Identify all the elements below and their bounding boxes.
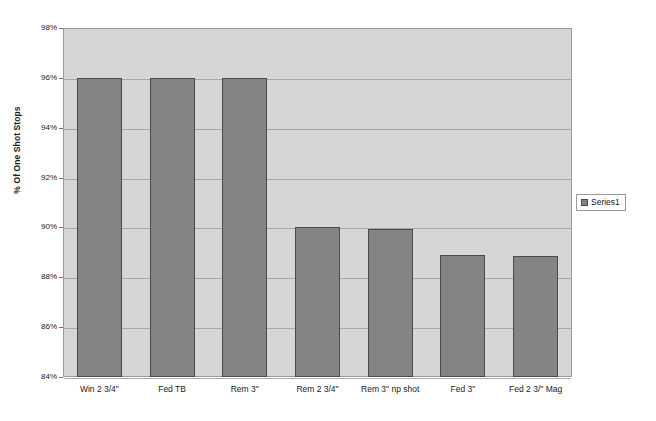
y-tick-label: 94%: [23, 124, 57, 132]
y-tick-label: 92%: [23, 174, 57, 182]
y-tick-label: 96%: [23, 74, 57, 82]
bar-chart: % Of One Shot Stops 98%96%94%92%90%88%86…: [0, 0, 656, 421]
bar-series-series1: [63, 28, 572, 377]
y-tick-label: 84%: [23, 373, 57, 381]
x-tick-label: Fed 2 3/" Mag: [487, 384, 584, 394]
bar: [440, 255, 485, 377]
y-tick-label: 90%: [23, 223, 57, 231]
y-tick-label: 98%: [23, 24, 57, 32]
y-tick-mark: [59, 377, 63, 378]
x-axis: Win 2 3/4"Fed TBRem 3"Rem 2 3/4"Rem 3" n…: [63, 384, 572, 404]
bar: [150, 78, 195, 377]
y-tick-label: 88%: [23, 273, 57, 281]
bar: [513, 256, 558, 377]
gridline: [64, 378, 571, 379]
bar: [295, 227, 340, 377]
legend: Series1: [576, 194, 626, 211]
bar: [222, 78, 267, 377]
legend-swatch-series1: [581, 199, 588, 206]
y-axis-title: % Of One Shot Stops: [12, 85, 22, 215]
bar: [77, 78, 122, 377]
legend-label-series1: Series1: [591, 198, 620, 207]
y-tick-label: 86%: [23, 323, 57, 331]
bar: [368, 229, 413, 377]
